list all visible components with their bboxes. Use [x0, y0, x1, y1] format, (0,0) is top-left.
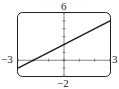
- plot-area: [0, 0, 119, 89]
